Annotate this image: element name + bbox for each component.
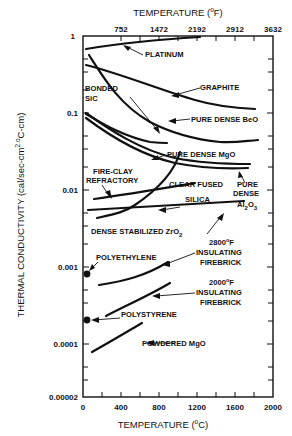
- label-beo: PURE DENSE BeO: [191, 115, 258, 124]
- top-axis-tick-labels: 752 1472 2192 2912 3632: [114, 25, 282, 34]
- svg-text:1472: 1472: [150, 25, 168, 34]
- svg-text:2192: 2192: [188, 25, 206, 34]
- y-axis-tick-labels: 1 0.1 0.01 0.001 0.0001 0.00002: [49, 32, 78, 402]
- label-bonded: BONDED: [85, 84, 118, 93]
- label-al2o3-3: Al2O3: [237, 200, 258, 211]
- label-silica-1: CLEAR FUSED: [169, 180, 224, 189]
- label-2800-3: FIREBRICK: [200, 258, 242, 267]
- label-fireclay-1: FIRE-CLAY: [93, 167, 133, 176]
- svg-text:1200: 1200: [188, 403, 206, 412]
- label-2000-3: FIREBRICK: [200, 298, 242, 307]
- point-polyethylene: [84, 271, 91, 278]
- label-2800-2: INSULATING: [196, 248, 242, 257]
- svg-text:0.1: 0.1: [67, 109, 79, 118]
- svg-text:0: 0: [81, 403, 86, 412]
- svg-text:0.0001: 0.0001: [54, 340, 79, 349]
- label-graphite: GRAPHITE: [200, 83, 239, 92]
- svg-text:0.01: 0.01: [62, 186, 78, 195]
- label-polystyrene: POLYSTYRENE: [121, 310, 177, 319]
- label-sic: SiC: [85, 94, 98, 103]
- label-zro2: DENSE STABILIZED ZrO2: [91, 227, 183, 238]
- svg-text:400: 400: [114, 403, 128, 412]
- label-polyethylene: POLYETHYLENE: [96, 253, 156, 262]
- bottom-ticks: [102, 392, 254, 397]
- svg-text:0.001: 0.001: [58, 263, 79, 272]
- svg-text:0.00002: 0.00002: [49, 393, 78, 402]
- label-platinum: PLATINUM: [145, 50, 184, 59]
- label-mgo: PURE DENSE MgO: [167, 150, 235, 159]
- x-axis-title: TEMPERATURE (oC): [118, 418, 209, 430]
- label-2800-1: 2800oF: [209, 237, 234, 247]
- curve-platinum: [86, 37, 200, 49]
- curve-powdered-mgo: [92, 323, 142, 352]
- svg-text:2912: 2912: [226, 25, 244, 34]
- y-ticks: [83, 59, 273, 380]
- point-polystyrene: [84, 317, 91, 324]
- curve-2800-firebrick: [99, 262, 168, 285]
- svg-text:1600: 1600: [226, 403, 244, 412]
- svg-text:752: 752: [114, 25, 128, 34]
- x-axis-tick-labels: 0 400 800 1200 1600 2000: [81, 403, 283, 412]
- svg-text:800: 800: [152, 403, 166, 412]
- label-al2o3-1: PURE: [237, 180, 258, 189]
- thermal-conductivity-chart: TEMPERATURE (oF) 752 1472 2192 2912 3632: [0, 0, 292, 436]
- label-silica-2: SILICA: [185, 195, 210, 204]
- label-al2o3-2: DENSE: [233, 189, 259, 198]
- svg-text:3632: 3632: [264, 25, 282, 34]
- label-powdered-mgo: POWDERED MgO: [142, 339, 206, 348]
- top-axis-title: TEMPERATURE (oF): [133, 6, 222, 18]
- svg-text:2000: 2000: [264, 403, 282, 412]
- svg-text:1: 1: [71, 32, 76, 41]
- series-labels: PLATINUM GRAPHITE BONDED SiC PURE DENSE …: [85, 50, 259, 348]
- y-axis-title: THERMAL CONDUCTIVITY (cal/sec-cm2.oC-cm): [14, 113, 26, 318]
- label-2000-2: INSULATING: [196, 288, 242, 297]
- label-fireclay-2: REFRACTORY: [86, 176, 138, 185]
- label-2000-1: 2000oF: [209, 277, 234, 287]
